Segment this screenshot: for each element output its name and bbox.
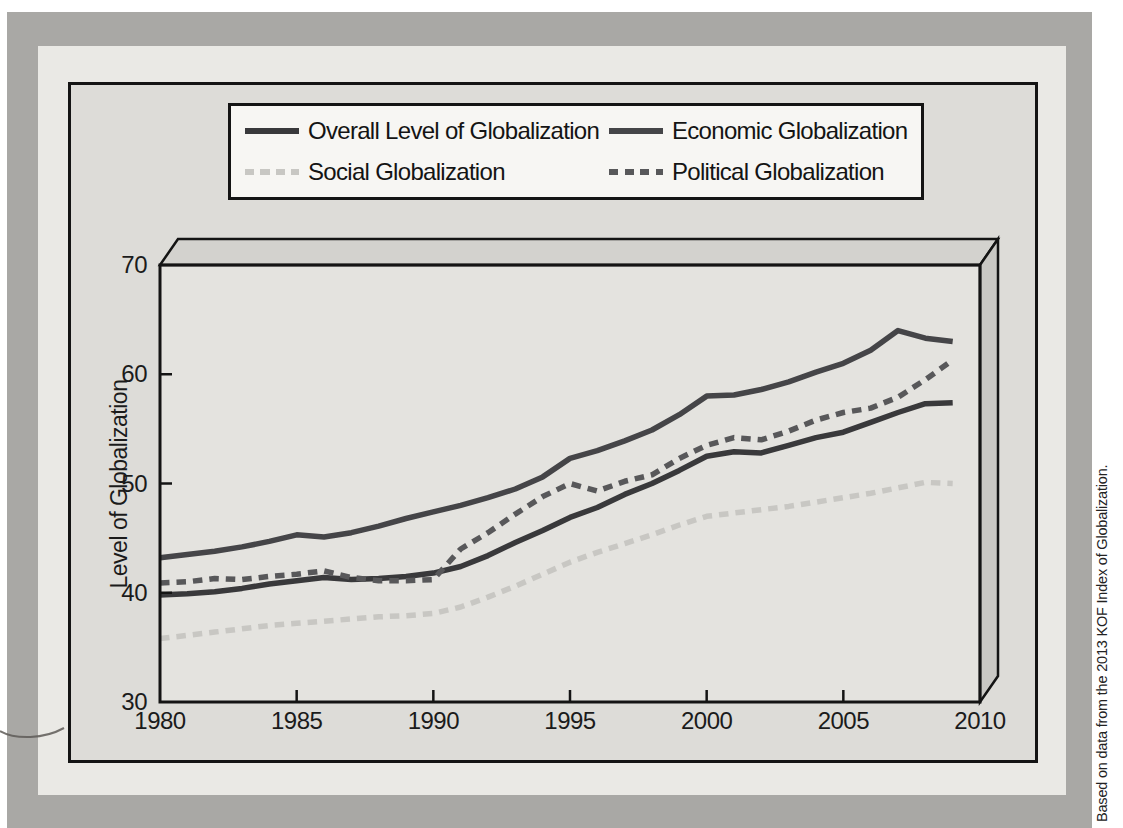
overall-line-swatch xyxy=(245,128,299,134)
source-note: Based on data from the 2013 KOF Index of… xyxy=(1094,0,1120,822)
legend-label-social: Social Globalization xyxy=(308,158,505,186)
x-axis-tick-label: 1990 xyxy=(408,707,460,734)
x-axis-tick-label: 1995 xyxy=(544,707,596,734)
economic-line-swatch xyxy=(609,128,663,134)
chart-top-face xyxy=(160,239,998,265)
x-axis-tick-label: 2000 xyxy=(681,707,733,734)
scanned-figure-page: 19801985199019952000200520103040506070 L… xyxy=(0,0,1123,828)
legend-label-overall: Overall Level of Globalization xyxy=(308,117,599,145)
legend-item-economic: Economic Globalization xyxy=(609,117,921,145)
legend-label-economic: Economic Globalization xyxy=(672,117,907,145)
legend-item-social: Social Globalization xyxy=(245,158,609,186)
plot-area xyxy=(160,265,980,702)
legend-item-political: Political Globalization xyxy=(609,158,921,186)
x-axis-tick-label: 1985 xyxy=(271,707,323,734)
social-line-swatch xyxy=(245,169,299,175)
legend-item-overall: Overall Level of Globalization xyxy=(245,117,609,145)
y-axis-tick-label: 70 xyxy=(121,251,147,278)
y-axis-tick-label: 30 xyxy=(121,688,147,715)
chart-legend: Overall Level of Globalization Economic … xyxy=(228,103,924,200)
legend-label-political: Political Globalization xyxy=(672,158,884,186)
x-axis-tick-label: 2010 xyxy=(954,707,1006,734)
x-axis-tick-label: 2005 xyxy=(818,707,870,734)
y-axis-title: Level of Globalization xyxy=(106,332,136,636)
scan-artifact-stroke xyxy=(0,728,64,737)
chart-right-face xyxy=(980,239,998,702)
political-line-swatch xyxy=(609,169,663,175)
